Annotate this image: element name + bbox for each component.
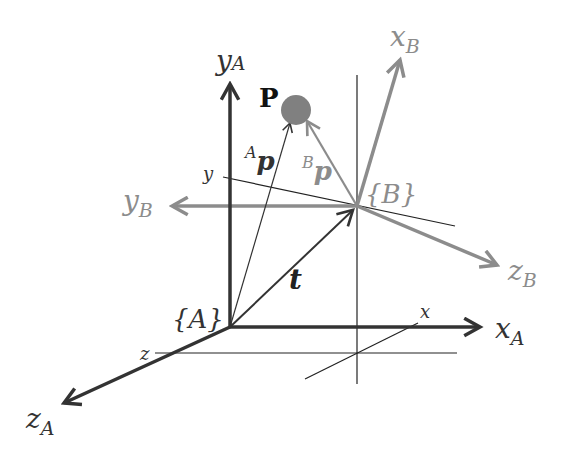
tick-y-label: y — [202, 163, 214, 184]
translation-label: t — [289, 263, 302, 296]
z-b-axis-arrow — [357, 206, 497, 265]
z-b-label: zB — [507, 254, 537, 291]
vector-a-p-label: Ap — [243, 143, 275, 176]
x-b-label: xB — [390, 20, 420, 57]
vector-b-p-label: Bp — [301, 153, 332, 186]
guide-y-line — [223, 177, 455, 226]
frame-a-axes — [64, 84, 480, 403]
y-a-label: yA — [214, 44, 246, 77]
point-p-label: P — [259, 83, 279, 113]
tick-x-label: x — [420, 301, 430, 322]
guide-x-line — [305, 323, 418, 379]
x-a-label: xA — [495, 312, 525, 349]
z-a-axis-arrow — [64, 327, 230, 403]
z-a-label: zA — [25, 402, 55, 439]
tick-z-label: z — [139, 343, 150, 364]
frame-b-label: {B} — [365, 179, 417, 209]
point-p-dot — [281, 95, 311, 125]
coordinate-frames-diagram: P yA xA zA xB yB zB {A} {B} Ap Bp t x y … — [0, 0, 568, 463]
y-b-label: yB — [121, 184, 153, 221]
frame-b-axes — [172, 60, 497, 265]
frame-a-label: {A} — [172, 304, 224, 334]
